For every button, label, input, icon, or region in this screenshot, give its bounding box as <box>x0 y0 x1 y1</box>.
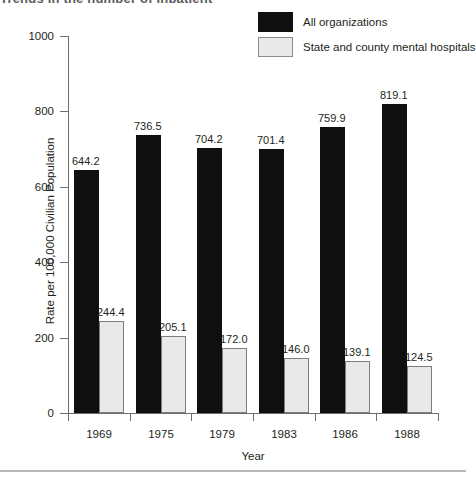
y-axis-tick <box>60 111 68 112</box>
bar-all-organizations-1969 <box>74 170 99 413</box>
y-axis-title: Rate per 100,000 Civilian Population <box>44 101 56 361</box>
y-axis-tick <box>60 187 68 188</box>
y-axis-tick <box>60 36 68 37</box>
bar-state-county-hospitals-1975 <box>161 336 186 413</box>
bar-value-label: 704.2 <box>195 133 223 145</box>
bar-value-label: 644.2 <box>72 155 100 167</box>
x-axis-tick <box>68 413 69 421</box>
bar-state-county-hospitals-1983 <box>284 358 309 413</box>
bar-state-county-hospitals-1969 <box>99 321 124 413</box>
y-axis-tick-label: 0 <box>48 407 54 419</box>
x-axis-tick <box>191 413 192 421</box>
bar-value-label: 701.4 <box>257 134 285 146</box>
bottom-divider <box>0 470 466 472</box>
y-axis-tick <box>60 338 68 339</box>
x-axis-tick <box>376 413 377 421</box>
x-axis-tick <box>315 413 316 421</box>
bar-value-label: 736.5 <box>134 120 162 132</box>
x-axis-tick-label: 1969 <box>86 428 112 440</box>
bar-state-county-hospitals-1979 <box>222 348 247 413</box>
y-axis-tick <box>60 413 68 414</box>
x-axis-title: Year <box>68 450 438 462</box>
x-axis-tick-label: 1979 <box>209 428 235 440</box>
bar-all-organizations-1979 <box>197 148 222 413</box>
x-axis-tick <box>253 413 254 421</box>
bar-value-label: 819.1 <box>380 89 408 101</box>
y-axis-tick <box>60 262 68 263</box>
bar-state-county-hospitals-1986 <box>345 361 370 413</box>
bar-value-label: 172.0 <box>220 333 248 345</box>
y-axis-tick-label: 1000 <box>28 30 54 42</box>
x-axis-tick-label: 1975 <box>148 428 174 440</box>
x-axis-tick-label: 1986 <box>332 428 358 440</box>
x-axis-tick <box>438 413 439 421</box>
bar-value-label: 139.1 <box>343 346 371 358</box>
y-axis-line <box>68 36 69 414</box>
x-axis-tick <box>130 413 131 421</box>
bar-all-organizations-1986 <box>320 127 345 413</box>
bar-all-organizations-1983 <box>259 149 284 413</box>
bar-value-label: 244.4 <box>97 306 125 318</box>
bar-value-label: 124.5 <box>405 351 433 363</box>
x-axis-tick-label: 1988 <box>394 428 420 440</box>
bar-state-county-hospitals-1988 <box>407 366 432 413</box>
bar-value-label: 205.1 <box>159 321 187 333</box>
x-axis-tick-label: 1983 <box>271 428 297 440</box>
bar-value-label: 146.0 <box>282 343 310 355</box>
bar-all-organizations-1988 <box>382 104 407 413</box>
bar-value-label: 759.9 <box>318 112 346 124</box>
bar-all-organizations-1975 <box>136 135 161 413</box>
